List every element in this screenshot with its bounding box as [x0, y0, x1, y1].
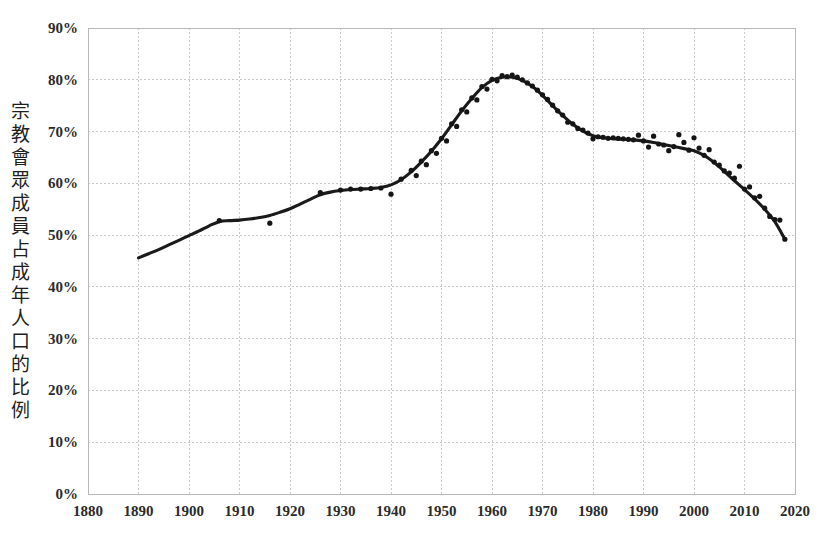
data-point [484, 87, 489, 92]
data-point [520, 77, 525, 82]
data-point [767, 214, 772, 219]
y-axis-tick-label: 80% [48, 72, 78, 88]
x-axis-tick-label: 1910 [225, 503, 255, 519]
data-point [414, 173, 419, 178]
data-point [479, 84, 484, 89]
y-axis-title-char: 成 [11, 192, 30, 214]
data-point [737, 164, 742, 169]
data-point [651, 134, 656, 139]
y-axis-title-char: 成 [11, 261, 30, 283]
y-axis-title: 宗教會眾成員占成年人口的比例 [11, 100, 30, 421]
data-point [601, 135, 606, 140]
data-point [691, 135, 696, 140]
data-point [646, 144, 651, 149]
data-point [358, 186, 363, 191]
data-point [606, 136, 611, 141]
y-axis-title-char: 會 [11, 146, 30, 168]
data-point [535, 88, 540, 93]
data-point [585, 131, 590, 136]
y-axis-tick-label: 60% [48, 175, 78, 191]
x-axis-tick-label: 1960 [477, 503, 507, 519]
x-axis-tick-label: 1980 [578, 503, 608, 519]
data-point [500, 73, 505, 78]
data-point [409, 168, 414, 173]
data-point [368, 186, 373, 191]
data-point [494, 78, 499, 83]
x-axis-tick-label: 1880 [73, 503, 103, 519]
data-point [575, 126, 580, 131]
data-point [641, 138, 646, 143]
data-point [782, 237, 787, 242]
y-axis-tick-label: 20% [48, 382, 78, 398]
data-point [626, 137, 631, 142]
x-axis-tick-label: 1900 [174, 503, 204, 519]
data-point [505, 74, 510, 79]
data-point [399, 177, 404, 182]
data-point [388, 192, 393, 197]
data-point [580, 127, 585, 132]
data-point [338, 187, 343, 192]
y-axis-title-char: 例 [11, 399, 30, 421]
data-point [560, 112, 565, 117]
y-axis-title-char: 眾 [11, 169, 30, 191]
data-point [489, 77, 494, 82]
x-axis-tick-label: 1970 [528, 503, 558, 519]
data-point [449, 121, 454, 126]
y-axis-title-char: 的 [11, 353, 30, 375]
x-axis-tick-label: 1890 [124, 503, 154, 519]
data-point [666, 148, 671, 153]
x-axis-tick-label: 2010 [730, 503, 760, 519]
data-point [696, 146, 701, 151]
data-point [545, 97, 550, 102]
data-point [424, 162, 429, 167]
y-axis-tick-label: 30% [48, 331, 78, 347]
y-axis-title-char: 宗 [11, 100, 30, 122]
y-axis-tick-label: 40% [48, 279, 78, 295]
data-point [474, 97, 479, 102]
data-point [590, 136, 595, 141]
data-point [439, 136, 444, 141]
y-axis-title-char: 員 [11, 215, 30, 237]
data-point [419, 158, 424, 163]
data-point [318, 190, 323, 195]
data-point [525, 80, 530, 85]
data-point [267, 221, 272, 226]
data-point [732, 176, 737, 181]
x-axis-tick-label: 1950 [427, 503, 457, 519]
data-point [707, 147, 712, 152]
data-point [611, 135, 616, 140]
data-point [429, 148, 434, 153]
data-point [565, 120, 570, 125]
y-axis-tick-label: 50% [48, 227, 78, 243]
data-point [454, 124, 459, 129]
data-point [378, 185, 383, 190]
data-point [762, 206, 767, 211]
data-point [752, 195, 757, 200]
data-point [434, 151, 439, 156]
data-point [772, 217, 777, 222]
data-point [722, 168, 727, 173]
data-point [676, 132, 681, 137]
data-point [671, 144, 676, 149]
x-axis-tick-label: 1940 [376, 503, 406, 519]
data-point [621, 136, 626, 141]
y-axis-tick-label: 10% [48, 434, 78, 450]
data-point [540, 92, 545, 97]
x-axis-tick-labels: 1880189019001910192019301940195019601970… [73, 503, 810, 519]
data-point [681, 140, 686, 145]
data-point [570, 121, 575, 126]
data-point [727, 170, 732, 175]
chart-background [0, 0, 820, 544]
y-axis-tick-label: 70% [48, 124, 78, 140]
data-point [459, 107, 464, 112]
data-point [217, 218, 222, 223]
data-point [757, 194, 762, 199]
data-point [717, 163, 722, 168]
y-axis-title-char: 人 [11, 307, 30, 329]
data-point [510, 73, 515, 78]
y-axis-tick-label: 90% [48, 20, 78, 36]
data-point [631, 137, 636, 142]
data-point [712, 160, 717, 165]
x-axis-tick-label: 2020 [780, 503, 810, 519]
data-point [515, 75, 520, 80]
